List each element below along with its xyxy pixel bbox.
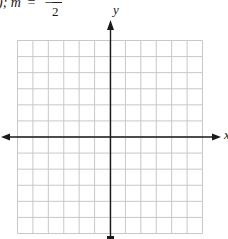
coordinate-plane xyxy=(0,0,228,239)
y-axis-up-arrow-icon xyxy=(107,20,114,30)
x-axis-left-arrow-icon xyxy=(1,134,10,141)
y-axis-down-arrow-icon xyxy=(107,236,114,239)
x-axis-right-arrow-icon xyxy=(212,134,221,141)
axes xyxy=(1,20,221,239)
